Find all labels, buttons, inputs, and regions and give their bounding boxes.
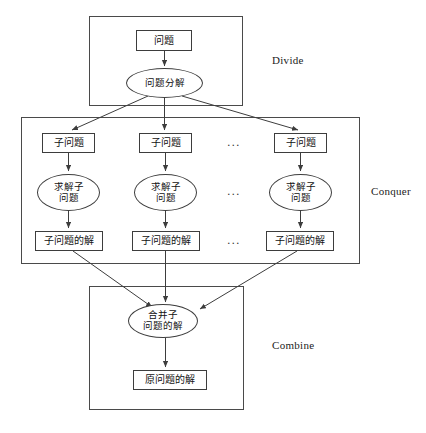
node-solve-subproblem-1-label: 求解子 问题 bbox=[52, 182, 86, 204]
phase-label-combine: Combine bbox=[272, 339, 314, 351]
ellipsis-solution-row: ... bbox=[227, 234, 241, 247]
node-solve-subproblem-n: 求解子 问题 bbox=[269, 174, 332, 211]
phase-label-divide: Divide bbox=[272, 54, 304, 66]
node-subproblem-solution-2: 子问题的解 bbox=[132, 231, 200, 251]
ellipsis-solve-row: ... bbox=[227, 185, 241, 198]
divide-conquer-diagram: Divide Conquer Combine 问题 问题分解 子问题 子问题 .… bbox=[0, 0, 426, 433]
node-problem-decomposition-label: 问题分解 bbox=[143, 78, 187, 89]
node-subproblem-solution-1: 子问题的解 bbox=[35, 231, 103, 251]
node-merge-subproblem-solutions-label: 合并子 问题的解 bbox=[141, 310, 185, 332]
node-problem: 问题 bbox=[136, 30, 192, 51]
node-subproblem-1: 子问题 bbox=[42, 133, 95, 153]
node-solve-subproblem-2-label: 求解子 问题 bbox=[149, 182, 183, 204]
node-problem-decomposition: 问题分解 bbox=[126, 68, 203, 98]
node-subproblem-2: 子问题 bbox=[139, 133, 192, 153]
node-merge-subproblem-solutions: 合并子 问题的解 bbox=[128, 304, 198, 338]
node-solve-subproblem-2: 求解子 问题 bbox=[134, 174, 197, 211]
node-subproblem-n: 子问题 bbox=[274, 133, 327, 153]
phase-label-conquer: Conquer bbox=[371, 185, 411, 197]
node-original-problem-solution: 原问题的解 bbox=[133, 370, 207, 390]
node-subproblem-solution-n: 子问题的解 bbox=[266, 231, 334, 251]
node-solve-subproblem-n-label: 求解子 问题 bbox=[284, 182, 318, 204]
node-solve-subproblem-1: 求解子 问题 bbox=[37, 174, 100, 211]
ellipsis-subproblem-row: ... bbox=[227, 136, 241, 149]
